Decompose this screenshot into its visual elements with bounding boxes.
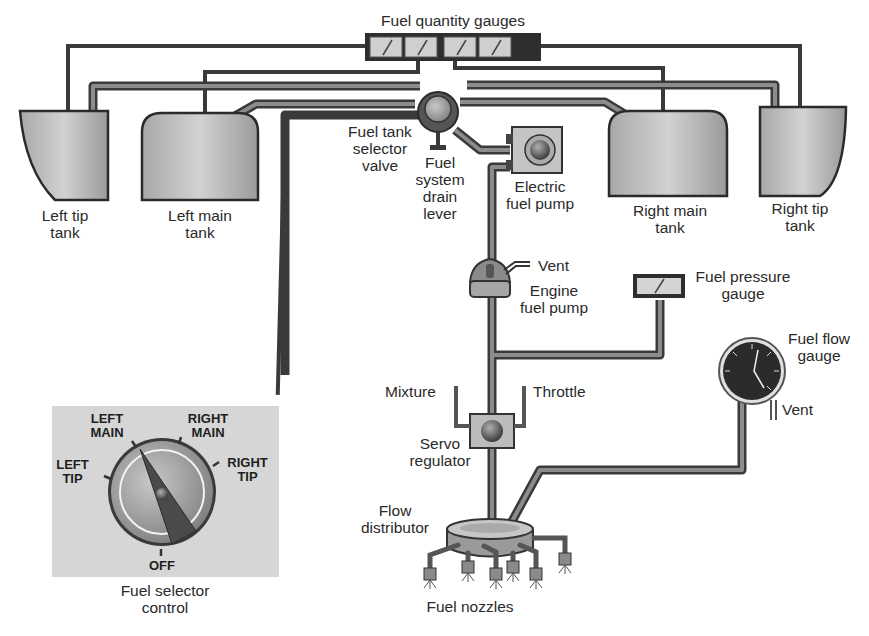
selector-pos-right-tip: RIGHT TIP xyxy=(220,456,275,484)
label-fuel-flow-gauge: Fuel flow gauge xyxy=(779,330,859,364)
fuel-quantity-gauges xyxy=(365,33,541,61)
label-flow-distributor: Flow distributor xyxy=(350,502,440,536)
label-drain-lever: Fuel system drain lever xyxy=(410,154,470,222)
fuel-flow-gauge xyxy=(719,338,785,420)
label-fuel-pressure-gauge: Fuel pressure gauge xyxy=(688,268,798,302)
selector-pos-right-main: RIGHT MAIN xyxy=(178,412,238,440)
label-left-tip-tank: Left tip tank xyxy=(20,207,110,241)
fuel-pressure-gauge xyxy=(633,274,685,298)
left-tip-tank xyxy=(20,111,108,200)
label-left-main-tank: Left main tank xyxy=(150,207,250,241)
selector-pos-off: OFF xyxy=(140,559,184,573)
label-fuel-selector-control: Fuel selector control xyxy=(100,582,230,616)
label-vent-engine-pump: Vent xyxy=(538,257,569,274)
left-main-tank xyxy=(142,113,258,200)
label-right-main-tank: Right main tank xyxy=(615,202,725,236)
selector-pos-left-tip: LEFT TIP xyxy=(50,458,95,486)
label-servo-regulator: Servo regulator xyxy=(400,435,480,469)
right-tip-tank xyxy=(760,107,846,196)
label-right-tip-tank: Right tip tank xyxy=(755,200,845,234)
label-engine-fuel-pump: Engine fuel pump xyxy=(514,282,594,316)
label-throttle: Throttle xyxy=(533,383,586,400)
label-fuel-quantity-gauges: Fuel quantity gauges xyxy=(365,12,541,29)
diagram-graphics xyxy=(0,0,869,636)
label-mixture: Mixture xyxy=(385,383,436,400)
fuel-system-diagram: Fuel quantity gauges Left tip tank Left … xyxy=(0,0,869,636)
selector-pos-left-main: LEFT MAIN xyxy=(82,412,132,440)
right-main-tank xyxy=(609,111,727,196)
electric-fuel-pump xyxy=(506,127,562,173)
label-electric-fuel-pump: Electric fuel pump xyxy=(495,178,585,212)
label-fuel-nozzles: Fuel nozzles xyxy=(405,598,535,615)
label-vent-flow-gauge: Vent xyxy=(782,401,813,418)
